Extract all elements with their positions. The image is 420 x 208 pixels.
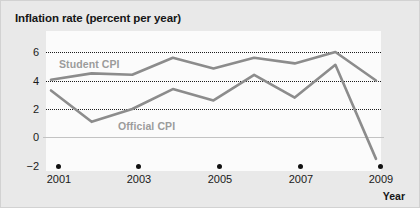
x-tick-dot-2001	[56, 164, 61, 169]
x-tick-label-2005: 2005	[190, 173, 250, 185]
y-tick-4: 4	[9, 75, 39, 87]
y-tick-minus2: −2	[9, 160, 39, 172]
x-tick-dot-2009	[378, 164, 383, 169]
y-tick-0: 0	[9, 131, 39, 143]
x-tick-label-2007: 2007	[271, 173, 331, 185]
x-tick-dot-2007	[298, 164, 303, 169]
x-tick-label-2001: 2001	[29, 173, 89, 185]
x-axis-title: Year	[383, 190, 405, 202]
x-tick-label-2003: 2003	[109, 173, 169, 185]
x-tick-dot-2003	[136, 164, 141, 169]
x-tick-label-2009: 2009	[351, 173, 411, 185]
x-tick-dot-2005	[217, 164, 222, 169]
chart-figure: Inflation rate (percent per year) Studen…	[0, 0, 420, 208]
y-tick-6: 6	[9, 46, 39, 58]
y-tick-2: 2	[9, 103, 39, 115]
